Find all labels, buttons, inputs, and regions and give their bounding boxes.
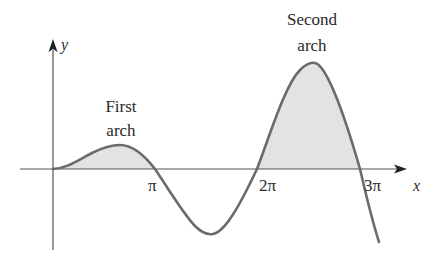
second-arch-label-line1: Second <box>287 10 338 29</box>
second-arch-label-line2: arch <box>297 36 327 55</box>
x-axis-label: x <box>412 177 420 194</box>
arch-diagram: y x π 2π 3π First arch Second arch <box>0 0 440 262</box>
y-axis-label: y <box>59 36 69 54</box>
tick-label-pi: π <box>148 176 157 195</box>
tick-label-3pi: 3π <box>364 176 382 195</box>
first-arch-label-line2: arch <box>106 121 136 140</box>
tick-label-2pi: 2π <box>259 176 277 195</box>
first-arch-label-line1: First <box>105 97 136 116</box>
